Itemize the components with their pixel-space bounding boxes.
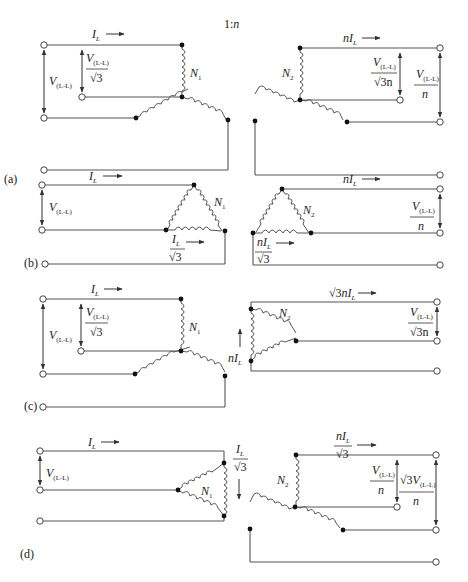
panel-b: IL V(L-L) N1 IL √3 (b) [24,169,443,270]
junction-node [179,349,184,354]
junction-node [222,461,227,466]
terminal [433,527,439,533]
current-label: nIL [343,31,357,47]
svg-text:V(L-L): V(L-L) [372,463,396,479]
phase-current-label: IL √3 [233,442,248,499]
svg-text:√3: √3 [257,252,270,266]
terminal [40,296,46,302]
line-voltage-label: V(L-L) n [410,199,436,233]
junction-node [164,228,169,233]
terminal [41,167,47,173]
panel-c-primary-wye: IL V(L-L) V(L-L) √3 N1 (c) [24,282,227,413]
svg-text:V(L-L): V(L-L) [416,67,440,83]
line-voltage-label: V(L-L) √3n [408,305,434,339]
svg-text:V(L-L): V(L-L) [410,305,434,321]
svg-text:√3: √3 [90,71,103,85]
turns-ratio-label: 1:n [224,17,239,31]
svg-text:n: n [418,219,424,233]
panel-c-secondary-delta: √3nIL N2 V(L-L) √3n nIL [228,286,440,374]
svg-text:√3: √3 [169,250,182,264]
current-label: IL [91,27,100,43]
winding-n2-label: N2 [281,66,294,82]
terminal [79,94,85,100]
delta-winding-coil [251,309,254,359]
winding-n1-coil [224,463,227,518]
terminal [434,368,440,374]
junction-node [222,514,227,519]
junction-node [192,183,197,188]
phase-voltage-label: V(L-L) n [370,463,396,497]
delta-winding-coil [253,230,308,233]
phase-voltage-label: V(L-L) √3n [371,55,397,89]
junction-node [294,453,299,458]
panel-tag-a: (a) [4,172,17,186]
delta-winding-coil [256,189,282,232]
delta-winding-coil [251,338,296,361]
svg-text:√3: √3 [90,325,103,339]
junction-node [298,98,303,103]
phase-voltage-label: V(L-L) √3 [85,305,110,339]
svg-text:V(L-L): V(L-L) [412,199,436,215]
svg-text:nIL: nIL [228,351,242,367]
svg-text:√3n: √3n [374,75,393,89]
current-label: IL [88,169,97,185]
svg-text:V(L-L): V(L-L) [86,51,110,67]
terminal [41,115,47,121]
junction-node [180,95,185,100]
svg-text:n: n [378,483,384,497]
terminal [40,404,46,410]
svg-text:V(L-L): V(L-L) [373,55,397,71]
winding-coil [181,351,225,372]
winding-coil [295,507,340,528]
winding-n2-coil [296,455,299,509]
winding-n1-label: N1 [200,484,213,500]
svg-text:√3: √3 [336,447,349,461]
winding-coil [250,493,295,509]
terminal [434,338,440,344]
line-voltage-label: V(L-L) [49,200,73,216]
terminal [397,97,403,103]
terminal [437,230,443,236]
current-label: nIL √3 [334,429,376,461]
terminal [78,348,84,354]
junction-node [280,187,285,192]
junction-node [176,488,181,493]
svg-text:IL: IL [171,232,180,248]
terminal [394,504,400,510]
panel-a-secondary-wye: nIL V(L-L) √3n V(L-L) n N2 [253,31,444,178]
line-voltage-label: V(L-L) [49,74,73,90]
terminal [42,261,48,267]
winding-n2-coil [300,48,303,100]
svg-text:V(L-L): V(L-L) [86,305,110,321]
terminal [437,45,443,51]
junction-node [298,46,303,51]
phase-current-label: IL √3 [169,232,204,264]
terminal [437,262,443,268]
winding-n2-label: N2 [276,473,289,489]
junction-node [249,359,254,364]
terminal [40,371,46,377]
transformer-connection-diagram: 1:n IL V(L-L) V(L-L) [0,0,468,582]
svg-text:√3: √3 [234,460,247,474]
phase-current-label: nIL [228,329,242,367]
current-label: √3nIL [329,286,356,302]
junction-node [223,229,228,234]
junction-node [251,231,256,236]
junction-node [293,505,298,510]
line-voltage-label: V(L-L) [46,466,70,482]
terminal [37,518,43,524]
panel-tag-c: (c) [24,399,37,413]
terminal [437,172,443,178]
winding-n1-coil [181,299,184,351]
junction-node [253,119,258,124]
winding-n2-label: N2 [302,203,315,219]
junction-node [223,374,228,379]
junction-node [345,120,350,125]
svg-text:1:n: 1:n [224,17,239,31]
terminal [433,559,439,565]
svg-text:n: n [413,494,419,508]
line-voltage-label: √3V(L-L) n [399,473,436,508]
svg-text:IL: IL [235,442,244,458]
junction-node [134,116,139,121]
current-label: IL [87,435,96,451]
